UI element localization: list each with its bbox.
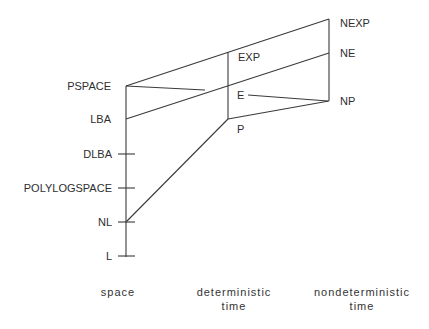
- label-nexp: NEXP: [340, 17, 370, 29]
- label-ne: NE: [340, 47, 355, 59]
- axis-label-space: space: [101, 286, 135, 298]
- label-e: E: [237, 89, 244, 101]
- label-l: L: [106, 250, 112, 262]
- label-pspace: PSPACE: [67, 80, 111, 92]
- edge-pspace-e: [126, 86, 205, 90]
- axis-label-nondeterministic: nondeterministic: [314, 286, 410, 298]
- axis-label-deterministic-time: time: [222, 300, 247, 312]
- complexity-hierarchy-diagram: PSPACE LBA DLBA POLYLOGSPACE NL L EXP E …: [0, 0, 429, 329]
- label-polylogspace: POLYLOGSPACE: [24, 182, 112, 194]
- label-lba: LBA: [90, 113, 111, 125]
- edge-nl-p: [126, 119, 228, 222]
- label-nl: NL: [98, 216, 112, 228]
- label-exp: EXP: [238, 51, 260, 63]
- label-p: P: [237, 123, 244, 135]
- edge-p-np: [228, 101, 329, 119]
- axis-label-nondeterministic-time: time: [350, 300, 375, 312]
- label-dlba: DLBA: [83, 148, 112, 160]
- edge-e-np: [248, 95, 328, 101]
- label-np: NP: [340, 95, 355, 107]
- axis-label-deterministic: deterministic: [197, 286, 272, 298]
